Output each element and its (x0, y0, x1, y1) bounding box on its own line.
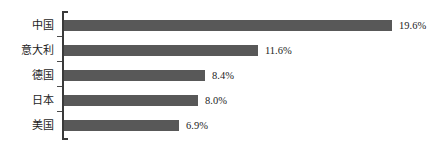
axis-cap-bottom (62, 138, 68, 140)
bar-container (64, 113, 179, 138)
category-label-3: 德国 (0, 63, 54, 88)
bar-value-label-1: 19.6% (399, 13, 426, 38)
bar-row: 日本8.0% (0, 88, 443, 113)
bar-chart: 中国19.6%意大利11.6%德国8.4%日本8.0%美国6.9% (0, 0, 443, 150)
bar-5 (64, 120, 179, 131)
bar-2 (64, 45, 258, 56)
bar-row: 德国8.4% (0, 63, 443, 88)
bar-value-label-2: 11.6% (265, 38, 292, 63)
bar-container (64, 38, 258, 63)
bar-value-label-5: 6.9% (186, 113, 208, 138)
bar-3 (64, 70, 205, 81)
bar-1 (64, 20, 392, 31)
category-label-5: 美国 (0, 113, 54, 138)
category-label-2: 意大利 (0, 38, 54, 63)
bar-container (64, 13, 392, 38)
bar-value-label-4: 8.0% (205, 88, 227, 113)
bar-value-label-3: 8.4% (212, 63, 234, 88)
category-label-4: 日本 (0, 88, 54, 113)
bar-container (64, 63, 205, 88)
bar-row: 意大利11.6% (0, 38, 443, 63)
bar-4 (64, 95, 198, 106)
plot-area: 中国19.6%意大利11.6%德国8.4%日本8.0%美国6.9% (0, 0, 443, 150)
bar-row: 美国6.9% (0, 113, 443, 138)
category-label-1: 中国 (0, 13, 54, 38)
bar-container (64, 88, 198, 113)
bar-row: 中国19.6% (0, 13, 443, 38)
